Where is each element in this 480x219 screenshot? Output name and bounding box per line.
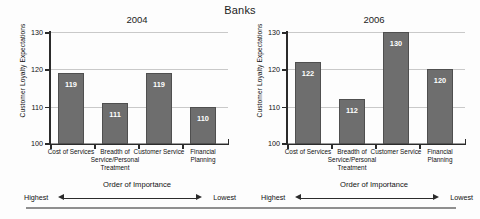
y-tick-label-130: 130 xyxy=(22,28,43,37)
x-axis-title: Order of Importance xyxy=(279,180,469,189)
x-category-label: Financial Planning xyxy=(414,148,466,164)
x-category-label: Financial Planning xyxy=(177,148,229,164)
direction-label-lowest: Lowest xyxy=(450,193,473,202)
bar-2006-financial-planning[interactable]: 120 xyxy=(427,69,453,144)
bar-2004-customer-service[interactable]: 119 xyxy=(146,73,172,144)
plot-area-2006: 130 120 110 100 122 112 130 xyxy=(287,32,465,144)
x-axis-title: Order of Importance xyxy=(42,180,232,189)
y-tick-label-110: 110 xyxy=(22,103,43,112)
bar-2004-financial-planning[interactable]: 110 xyxy=(190,107,216,144)
bar-value-label: 119 xyxy=(59,80,83,89)
arrow-line xyxy=(64,198,196,199)
y-tick-label-130: 130 xyxy=(259,28,280,37)
bar-value-label: 112 xyxy=(340,106,364,115)
direction-label-highest: Highest xyxy=(261,193,285,202)
bar-value-label: 110 xyxy=(191,114,215,123)
arrow-right-head-icon xyxy=(433,194,439,200)
y-tick-label-120: 120 xyxy=(22,65,43,74)
x-category-labels-2004: Cost of Services Breadth of Service/Pers… xyxy=(50,148,228,180)
plot-area-2004: 130 120 110 100 119 111 119 xyxy=(50,32,228,144)
panel-title-2004: 2004 xyxy=(42,14,232,25)
chart-panel-2006: 2006 Customer Loyalty Expectations 130 1… xyxy=(239,12,476,207)
bar-value-label: 120 xyxy=(428,76,452,85)
panel-title-2006: 2006 xyxy=(279,14,469,25)
bottom-divider xyxy=(26,207,456,209)
x-category-labels-2006: Cost of Services Breadth of Service/Pers… xyxy=(287,148,465,180)
bar-2004-breadth-of-service[interactable]: 111 xyxy=(102,103,128,144)
importance-direction-arrow-2006: Highest Lowest xyxy=(261,192,473,204)
chart-panel-2004: 2004 Customer Loyalty Expectations 130 1… xyxy=(2,12,239,207)
arrow-line xyxy=(301,198,433,199)
bar-value-label: 119 xyxy=(147,80,171,89)
y-tick-label-100: 100 xyxy=(22,139,43,148)
bar-2006-cost-of-services[interactable]: 122 xyxy=(295,62,321,144)
figure-container: Banks 2004 Customer Loyalty Expectations… xyxy=(0,0,480,219)
bar-2006-customer-service[interactable]: 130 xyxy=(383,32,409,144)
direction-label-highest: Highest xyxy=(24,193,48,202)
bar-value-label: 111 xyxy=(103,110,127,119)
bar-value-label: 122 xyxy=(296,69,320,78)
bar-2004-cost-of-services[interactable]: 119 xyxy=(58,73,84,144)
y-tick-label-100: 100 xyxy=(259,139,280,148)
y-tick-label-110: 110 xyxy=(259,103,280,112)
bar-group-2006: 122 112 130 120 xyxy=(287,32,465,144)
arrow-right-head-icon xyxy=(196,194,202,200)
importance-direction-arrow-2004: Highest Lowest xyxy=(24,192,236,204)
bar-group-2004: 119 111 119 110 xyxy=(50,32,228,144)
bar-2006-breadth-of-service[interactable]: 112 xyxy=(339,99,365,144)
y-tick-label-120: 120 xyxy=(259,65,280,74)
bar-value-label: 130 xyxy=(384,39,408,48)
direction-label-lowest: Lowest xyxy=(213,193,236,202)
